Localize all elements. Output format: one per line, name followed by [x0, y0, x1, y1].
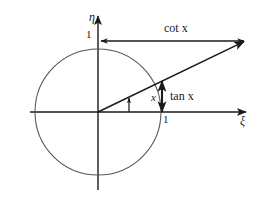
tangent-label: tan x	[170, 90, 194, 102]
trigonometry-unit-circle-figure: η ξ 1 1 x tan x cot x	[0, 0, 266, 205]
unit-tick-eta-label: 1	[86, 29, 92, 40]
cotangent-label: cot x	[164, 22, 188, 34]
unit-tick-xi-label: 1	[163, 114, 169, 125]
eta-axis-label: η	[89, 11, 95, 23]
figure-canvas	[0, 0, 266, 205]
xi-axis-label: ξ	[240, 115, 245, 127]
angle-label: x	[151, 92, 156, 103]
